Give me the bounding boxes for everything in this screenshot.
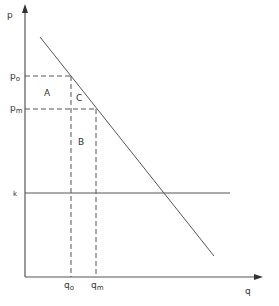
pm-label: pm xyxy=(10,103,23,115)
region-a-label: A xyxy=(44,88,51,98)
q0-label: qo xyxy=(64,280,74,292)
y-axis-label: p xyxy=(7,10,13,20)
x-axis-label: q xyxy=(245,286,251,296)
price-quantity-diagram: p q k po pm qo qm A C B xyxy=(0,0,279,306)
region-c-label: C xyxy=(76,93,82,103)
y-axis-arrow-icon xyxy=(22,4,28,13)
x-axis-arrow-icon xyxy=(254,274,263,280)
cost-line-label: k xyxy=(13,190,18,198)
region-b-label: B xyxy=(78,137,84,147)
demand-curve xyxy=(40,37,214,256)
p0-label: po xyxy=(10,71,20,83)
qm-label: qm xyxy=(91,280,104,292)
